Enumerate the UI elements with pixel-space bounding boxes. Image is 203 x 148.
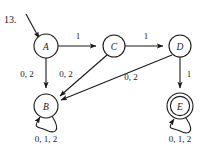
state-label-b: B bbox=[43, 102, 49, 112]
edge-label-d-to-e: 1 bbox=[187, 69, 192, 79]
state-label-c: C bbox=[111, 42, 118, 52]
edge-label-c-to-d: 1 bbox=[144, 31, 149, 41]
state-label-d: D bbox=[176, 42, 184, 52]
state-label-e: E bbox=[176, 102, 183, 112]
fsm-figure: 13. 1 1 0, 2 0, 2 0, 2 1 0, 1, 2 0, 1, 2… bbox=[0, 0, 203, 148]
edge-label-a-to-b: 0, 2 bbox=[20, 69, 34, 79]
self-loop-e bbox=[170, 118, 190, 133]
edge-label-d-to-b: 0, 2 bbox=[124, 72, 138, 82]
edge-d-to-b bbox=[61, 55, 172, 100]
state-label-a: A bbox=[42, 42, 49, 52]
edge-label-c-to-b: 0, 2 bbox=[59, 69, 73, 79]
edge-label-b-self-loop: 0, 1, 2 bbox=[35, 134, 58, 144]
start-arrow bbox=[26, 14, 39, 38]
figure-number: 13. bbox=[4, 14, 17, 25]
edge-label-e-self-loop: 0, 1, 2 bbox=[169, 134, 192, 144]
edge-label-a-to-c: 1 bbox=[76, 31, 81, 41]
fsm-canvas: 13. 1 1 0, 2 0, 2 0, 2 1 0, 1, 2 0, 1, 2… bbox=[0, 0, 203, 148]
